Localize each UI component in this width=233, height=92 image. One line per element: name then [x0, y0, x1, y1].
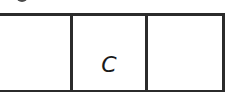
cell-2-label: C [101, 52, 116, 77]
cell-2: C [73, 16, 148, 90]
cell-3 [148, 16, 222, 90]
partial-text-fragment [16, 0, 28, 2]
cell-row: C [0, 13, 225, 92]
cell-1 [0, 16, 73, 90]
